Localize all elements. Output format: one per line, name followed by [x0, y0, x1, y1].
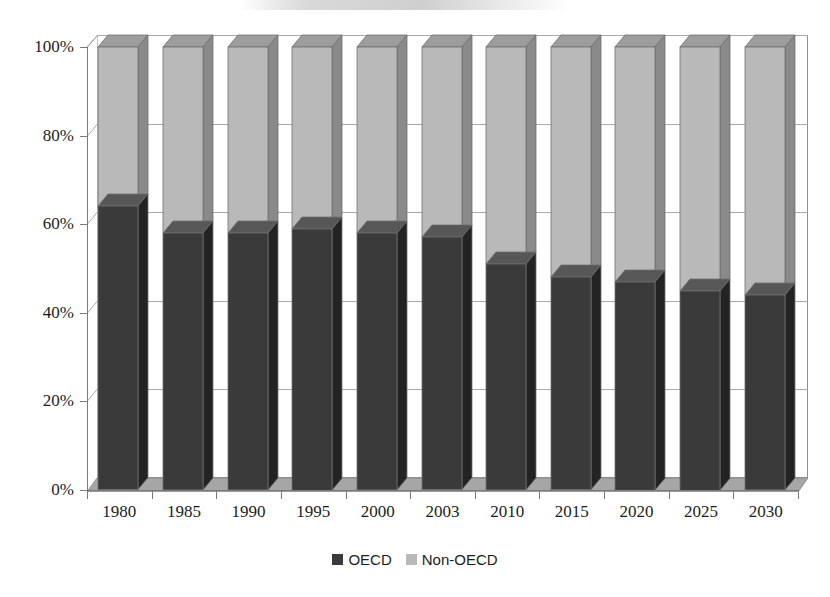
x-axis-label: 2010: [475, 503, 540, 521]
x-axis-label: 1995: [281, 503, 346, 521]
gridline-depth-connector: [87, 124, 98, 136]
gridline-depth-connector: [87, 35, 98, 47]
bar-segment-nonoecd: [551, 47, 591, 277]
bar-segment-oecd: [357, 233, 397, 490]
chart-legend: OECDNon-OECD: [0, 551, 830, 568]
y-axis-label: 100%: [34, 38, 74, 55]
x-axis-line: [87, 490, 798, 491]
plot-area: 0%20%40%60%80%100% 198019851990199520002…: [0, 0, 830, 597]
y-axis-label: 40%: [43, 304, 74, 321]
legend-swatch-icon: [332, 554, 343, 565]
bar-segment-oecd: [228, 233, 268, 490]
x-axis-tick: [216, 490, 217, 499]
chart-left-wall: [87, 35, 98, 490]
bar-segment-nonoecd: [745, 47, 785, 295]
y-axis-label: 60%: [43, 215, 74, 232]
legend-label: OECD: [348, 551, 391, 568]
x-axis-tick: [798, 490, 799, 499]
x-axis-tick: [346, 490, 347, 499]
y-axis-label: 0%: [51, 481, 74, 498]
x-axis-label: 1980: [87, 503, 152, 521]
x-axis-tick: [669, 490, 670, 499]
x-axis-tick: [281, 490, 282, 499]
legend-label: Non-OECD: [422, 551, 498, 568]
bar-segment-nonoecd: [228, 47, 268, 233]
bar-segment-nonoecd: [422, 47, 462, 237]
bar-segment-oecd: [745, 295, 785, 490]
y-axis-line: [87, 47, 88, 491]
x-axis-tick: [539, 490, 540, 499]
gridline-depth-connector: [87, 301, 98, 313]
bar-segment-oecd: [163, 233, 203, 490]
bar-segment-nonoecd: [680, 47, 720, 291]
bar-segment-oecd: [680, 291, 720, 490]
y-axis-label: 20%: [43, 392, 74, 409]
bar-segment-nonoecd: [486, 47, 526, 264]
legend-swatch-icon: [406, 554, 417, 565]
gridline-depth-connector: [87, 212, 98, 224]
bar-segment-nonoecd: [163, 47, 203, 233]
gridline-depth-connector: [87, 389, 98, 401]
bar-segment-oecd: [551, 277, 591, 490]
bar-segment-nonoecd: [357, 47, 397, 233]
y-axis-tick: [80, 401, 87, 402]
bar-segment-nonoecd: [615, 47, 655, 282]
x-axis-label: 2000: [346, 503, 411, 521]
y-axis-tick: [80, 47, 87, 48]
x-axis-label: 1985: [152, 503, 217, 521]
y-axis-tick: [80, 224, 87, 225]
y-axis-tick: [80, 490, 87, 491]
x-axis-tick: [475, 490, 476, 499]
y-axis-tick: [80, 313, 87, 314]
bar-segment-oecd: [422, 237, 462, 490]
y-axis-tick: [80, 136, 87, 137]
bar-segment-oecd: [98, 206, 138, 490]
x-axis-label: 2015: [539, 503, 604, 521]
x-axis-label: 2025: [669, 503, 734, 521]
y-axis-label: 80%: [43, 127, 74, 144]
x-axis-label: 1990: [216, 503, 281, 521]
legend-item[interactable]: Non-OECD: [406, 551, 498, 568]
x-axis-tick: [152, 490, 153, 499]
x-axis-tick: [87, 490, 88, 499]
bar-segment-oecd: [615, 282, 655, 490]
bar-segment-nonoecd: [292, 47, 332, 229]
x-axis-label: 2020: [604, 503, 669, 521]
x-axis-tick: [410, 490, 411, 499]
x-axis-label: 2030: [733, 503, 798, 521]
x-axis-tick: [733, 490, 734, 499]
bar-segment-oecd: [486, 264, 526, 490]
x-axis-tick: [604, 490, 605, 499]
chart-container: 0%20%40%60%80%100% 198019851990199520002…: [0, 0, 830, 597]
legend-item[interactable]: OECD: [332, 551, 391, 568]
x-axis-label: 2003: [410, 503, 475, 521]
bar-segment-nonoecd: [98, 47, 138, 206]
bar-segment-oecd: [292, 229, 332, 490]
